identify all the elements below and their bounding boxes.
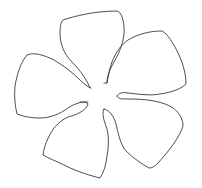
petal-lower-right [104,96,183,168]
flower-canvas: Five-petal flower outline [0,0,202,188]
petal-top [60,11,124,88]
flower-outline-drawing [0,0,202,188]
petal-left [15,54,91,118]
petal-bottom [43,102,108,178]
petal-upper-right [107,31,186,96]
